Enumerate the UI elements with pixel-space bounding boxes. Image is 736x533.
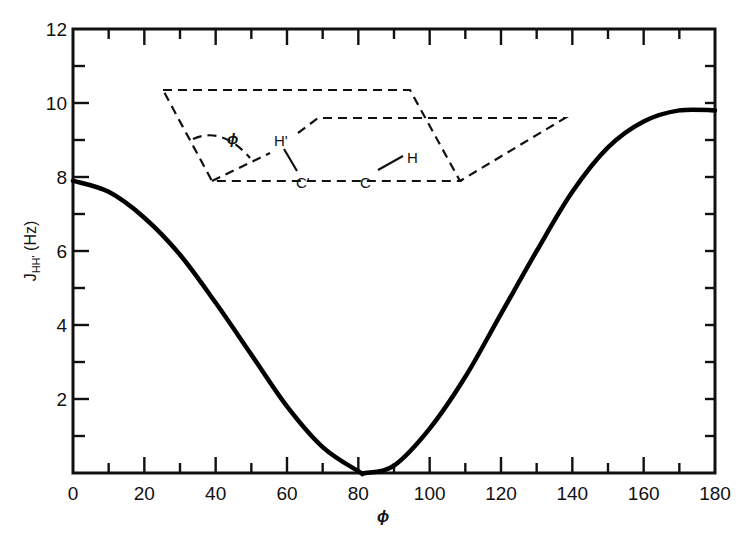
x-axis-ticks: [109, 29, 680, 473]
svg-text:100: 100: [414, 483, 446, 504]
angle-arc: [193, 135, 250, 158]
svg-text:180: 180: [699, 483, 731, 504]
svg-text:10: 10: [46, 93, 67, 114]
svg-text:60: 60: [276, 483, 297, 504]
svg-text:20: 20: [134, 483, 155, 504]
atom-H-prime: H': [274, 132, 288, 149]
x-axis-title: ϕ: [377, 508, 389, 525]
dihedral-inset-diagram: [163, 90, 565, 181]
atom-H: H: [407, 149, 418, 166]
svg-text:160: 160: [628, 483, 660, 504]
bond-H-prime-C-prime: [284, 149, 297, 171]
x-axis-tick-labels: 020406080100120140160180: [68, 483, 731, 504]
svg-text:120: 120: [485, 483, 517, 504]
y-axis-tick-labels: 24681012: [46, 19, 68, 410]
inset-bonds: [284, 149, 403, 171]
svg-text:JHH' (Hz): JHH' (Hz): [22, 221, 42, 282]
svg-text:140: 140: [556, 483, 588, 504]
data-series-curve: [73, 110, 715, 474]
svg-text:8: 8: [56, 167, 67, 188]
svg-text:0: 0: [68, 483, 79, 504]
phi-angle-label: ϕ: [227, 130, 238, 147]
svg-text:2: 2: [56, 389, 67, 410]
bond-C-H: [378, 156, 403, 170]
atom-C-prime: C': [296, 174, 310, 191]
atom-C: C: [360, 174, 371, 191]
svg-text:80: 80: [348, 483, 369, 504]
y-axis-ticks: [73, 66, 715, 436]
karplus-chart: 020406080100120140160180 24681012 ϕ JHH'…: [0, 0, 736, 533]
y-axis-title: JHH' (Hz): [22, 221, 42, 282]
plot-frame: [73, 29, 715, 473]
svg-text:4: 4: [56, 315, 67, 336]
svg-text:12: 12: [46, 19, 67, 40]
svg-text:40: 40: [205, 483, 226, 504]
plane-edge-lower: [212, 153, 270, 181]
svg-text:6: 6: [56, 241, 67, 262]
